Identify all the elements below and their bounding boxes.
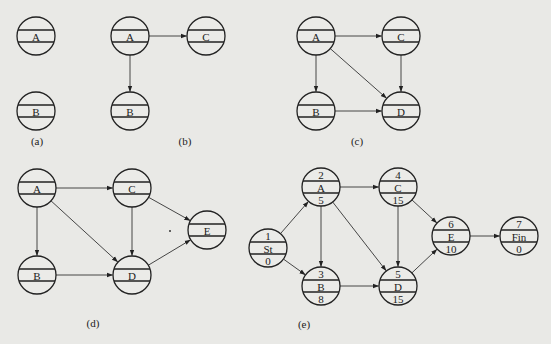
- node-label: E: [448, 231, 455, 243]
- node-d-B[interactable]: B: [18, 256, 56, 294]
- node-label: B: [126, 106, 133, 118]
- edge-e-1-to-3: [283, 259, 305, 275]
- figure-caption: (e): [298, 318, 311, 331]
- node-b-C[interactable]: C: [187, 17, 225, 55]
- node-b-B[interactable]: B: [111, 92, 149, 130]
- node-label: E: [204, 225, 211, 237]
- node-b-A[interactable]: A: [111, 17, 149, 55]
- figure-caption: (d): [87, 317, 100, 330]
- node-id: 2: [318, 169, 324, 181]
- node-c-A[interactable]: A: [297, 17, 335, 55]
- node-id: 6: [448, 218, 454, 230]
- node-label: D: [397, 106, 405, 118]
- node-id: 4: [395, 169, 401, 181]
- figure-caption: (a): [31, 135, 44, 148]
- node-duration: 5: [318, 194, 324, 206]
- node-label: A: [317, 182, 325, 194]
- node-label: A: [33, 183, 41, 195]
- node-e-2[interactable]: A25: [302, 168, 340, 206]
- node-label: D: [128, 270, 136, 282]
- node-duration: 10: [446, 243, 458, 255]
- node-a-A[interactable]: A: [17, 17, 55, 55]
- node-label: B: [32, 106, 39, 118]
- node-duration: 0: [516, 243, 522, 255]
- node-d-A[interactable]: A: [18, 169, 56, 207]
- node-id: 1: [265, 230, 271, 242]
- node-e-7[interactable]: Fin70: [500, 217, 538, 255]
- edge-e-1-to-2: [280, 202, 308, 234]
- node-id: 7: [516, 218, 522, 230]
- node-c-C[interactable]: C: [382, 17, 420, 55]
- node-label: C: [397, 31, 404, 43]
- node-e-6[interactable]: E610: [432, 217, 470, 255]
- node-id: 5: [395, 268, 401, 280]
- node-id: 3: [318, 268, 324, 280]
- edge-d-D-to-E: [148, 240, 190, 265]
- node-e-4[interactable]: C415: [379, 168, 417, 206]
- node-d-D[interactable]: D: [113, 256, 151, 294]
- node-a-B[interactable]: B: [17, 92, 55, 130]
- node-duration: 0: [265, 255, 271, 267]
- figure-caption: (b): [179, 135, 192, 148]
- node-c-B[interactable]: B: [297, 92, 335, 130]
- node-label: B: [33, 270, 40, 282]
- edge-c-A-to-D: [330, 49, 386, 99]
- node-d-E[interactable]: E: [188, 211, 226, 249]
- node-label: B: [312, 106, 319, 118]
- node-label: St: [263, 243, 272, 255]
- node-c-D[interactable]: D: [382, 92, 420, 130]
- node-label: A: [32, 31, 40, 43]
- node-duration: 8: [318, 293, 324, 305]
- node-e-3[interactable]: B38: [302, 267, 340, 305]
- figure-caption: (c): [351, 135, 364, 148]
- stray-dot: [169, 230, 171, 232]
- node-e-1[interactable]: St10: [249, 229, 287, 267]
- node-duration: 15: [393, 293, 405, 305]
- nodes-layer: ABACBACBDACEBDSt10A25B38C415D515E610Fin7…: [17, 17, 538, 305]
- node-e-5[interactable]: D515: [379, 267, 417, 305]
- node-label: C: [128, 183, 135, 195]
- node-d-C[interactable]: C: [113, 169, 151, 207]
- network-diagram-canvas: ABACBACBDACEBDSt10A25B38C415D515E610Fin7…: [0, 0, 551, 344]
- edge-e-2-to-5: [333, 202, 386, 271]
- edge-d-C-to-E: [149, 197, 190, 220]
- node-label: D: [394, 281, 402, 293]
- edge-e-5-to-6: [412, 249, 437, 273]
- node-label: Fin: [512, 231, 527, 243]
- node-label: A: [312, 31, 320, 43]
- edge-e-4-to-6: [412, 200, 437, 223]
- node-label: A: [126, 31, 134, 43]
- node-label: C: [394, 182, 401, 194]
- node-duration: 15: [393, 194, 405, 206]
- node-label: B: [317, 281, 324, 293]
- node-label: C: [202, 31, 209, 43]
- edge-d-A-to-D: [51, 201, 118, 262]
